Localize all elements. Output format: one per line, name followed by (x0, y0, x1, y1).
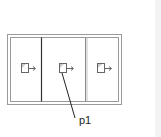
label-p1: p1 (79, 115, 91, 126)
window-arrow-icon (22, 64, 36, 73)
window-arrow-icon (60, 64, 74, 73)
window-arrow-icon (98, 64, 112, 73)
leader-line (62, 73, 75, 118)
